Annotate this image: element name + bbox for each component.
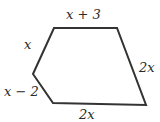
label-upper-left: x	[24, 37, 32, 52]
pentagon-diagram: x + 3 x x − 2 2x 2x	[0, 0, 160, 122]
pentagon-shape	[33, 28, 146, 105]
label-top: x + 3	[66, 7, 101, 22]
label-right: 2x	[138, 60, 155, 75]
label-bottom: 2x	[78, 107, 95, 122]
label-lower-left: x − 2	[4, 84, 39, 99]
